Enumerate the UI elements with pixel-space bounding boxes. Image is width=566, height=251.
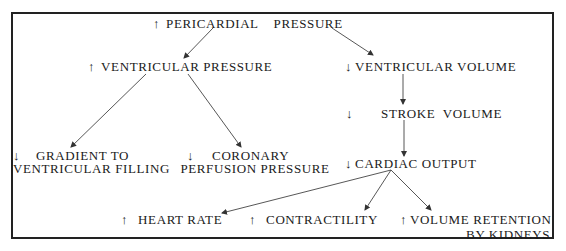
- node-heart-rate: ↑HEART RATE: [121, 213, 222, 227]
- decrease-arrow-icon: ↓: [345, 60, 352, 74]
- node-ventricular-volume: ↓VENTRICULAR VOLUME: [345, 60, 516, 74]
- decrease-arrow-icon: ↓: [345, 157, 352, 171]
- node-label: CONTRACTILITY: [266, 212, 378, 227]
- node-line-2: BY KIDNEYS: [400, 228, 550, 242]
- edge-ventricular-pressure-to-gradient: [71, 74, 146, 147]
- node-line-1: ↑VOLUME RETENTION: [400, 213, 550, 227]
- node-label: HEART RATE: [138, 212, 222, 227]
- node-label: CARDIAC OUTPUT: [355, 156, 476, 171]
- node-stroke-volume: ↓STROKE VOLUME: [346, 107, 502, 121]
- node-coronary-perfusion: ↓CORONARY PERFUSION PRESSURE: [180, 149, 330, 176]
- node-cardiac-output: ↓CARDIAC OUTPUT: [345, 157, 477, 171]
- increase-arrow-icon: ↑: [121, 213, 128, 227]
- node-line-2: PERFUSION PRESSURE: [180, 162, 330, 176]
- node-volume-retention: ↑VOLUME RETENTION BY KIDNEYS: [400, 213, 550, 242]
- increase-arrow-icon: ↑: [400, 213, 407, 227]
- node-contractility: ↑CONTRACTILITY: [249, 213, 378, 227]
- node-label: VENTRICULAR VOLUME: [355, 59, 516, 74]
- node-ventricular-pressure: ↑VENTRICULAR PRESSURE: [88, 60, 272, 74]
- edge-cardiac-output-to-heart-rate: [222, 170, 391, 213]
- edge-cardiac-output-to-volume-retention: [391, 170, 431, 210]
- edge-pericardial-to-ventricular-volume: [332, 28, 373, 55]
- increase-arrow-icon: ↑: [249, 213, 256, 227]
- node-label: STROKE VOLUME: [381, 106, 502, 121]
- node-line-2: VENTRICULAR FILLING: [13, 162, 168, 176]
- node-label: VENTRICULAR PRESSURE: [101, 59, 272, 74]
- node-gradient-filling: ↓GRADIENT TO VENTRICULAR FILLING: [13, 149, 168, 176]
- increase-arrow-icon: ↑: [88, 60, 95, 74]
- node-label: VOLUME RETENTION: [410, 212, 551, 227]
- edge-pericardial-to-ventricular-pressure: [184, 28, 213, 58]
- increase-arrow-icon: ↑: [153, 17, 160, 31]
- edge-ventricular-pressure-to-coronary: [188, 74, 241, 147]
- node-label: PERICARDIAL PRESSURE: [166, 16, 343, 31]
- decrease-arrow-icon: ↓: [346, 107, 353, 121]
- node-pericardial-pressure: ↑PERICARDIAL PRESSURE: [153, 17, 343, 31]
